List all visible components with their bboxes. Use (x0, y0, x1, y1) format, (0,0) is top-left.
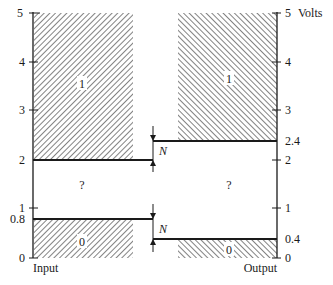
input-low-label: 0 (79, 235, 85, 249)
output-tick-5: 5 (285, 6, 291, 20)
input-tick-2: 2 (19, 153, 25, 167)
output-tick-4: 4 (285, 55, 291, 69)
input-tick-0: 0 (19, 251, 25, 265)
input-undefined-label: ? (79, 178, 84, 192)
output-tick-0-4: 0.4 (285, 232, 300, 246)
low-noise-margin-marker (150, 204, 156, 252)
output-tick-1: 1 (285, 201, 291, 215)
output-high-label: 1 (226, 72, 232, 86)
high-noise-margin-label: N (158, 144, 168, 158)
output-tick-0: 0 (285, 251, 291, 265)
output-low-label: 0 (226, 243, 232, 257)
units-label: Volts (298, 6, 323, 20)
output-axis-label: Output (244, 261, 278, 275)
output-tick-2: 2 (285, 153, 291, 167)
input-axis-label: Input (33, 261, 59, 275)
high-noise-margin-marker (150, 126, 156, 172)
noise-margin-diagram: 5 4 3 2 1 0.8 0 Input 5 Volts 4 3 2.4 2 … (0, 0, 333, 285)
input-tick-5: 5 (17, 6, 23, 20)
output-tick-3: 3 (285, 103, 291, 117)
output-undefined-label: ? (226, 178, 231, 192)
input-tick-4: 4 (19, 55, 25, 69)
input-high-label: 1 (79, 77, 85, 91)
output-tick-2-4: 2.4 (285, 134, 300, 148)
low-noise-margin-label: N (158, 222, 168, 236)
input-tick-3: 3 (19, 103, 25, 117)
input-tick-0-8: 0.8 (10, 212, 25, 226)
